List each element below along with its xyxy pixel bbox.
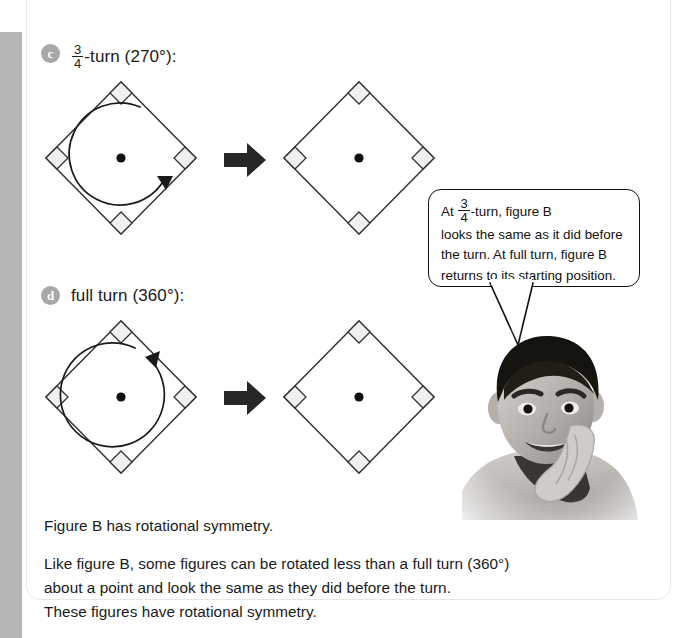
paragraph-figure-b-symmetry: Figure B has rotational symmetry. <box>44 514 273 538</box>
fraction-three-quarters: 3 4 <box>72 43 83 71</box>
figure-b-before-full-turn <box>40 315 202 479</box>
figure-b-after-full-turn <box>278 315 440 479</box>
bubble-line1-prefix: At <box>441 204 454 219</box>
left-margin-bar <box>0 32 22 638</box>
speech-bubble-text: At 3 4 -turn, figure B looks the same as… <box>441 197 631 286</box>
heading-suffix-text: -turn (270°): <box>84 47 176 66</box>
paragraph-rotational-symmetry-definition: Like figure B, some figures can be rotat… <box>44 552 509 624</box>
bubble-fraction-numerator: 3 <box>458 197 469 210</box>
heading-three-quarter-turn: 3 4 -turn (270°): <box>71 43 177 71</box>
figure-b-after-three-quarter-turn <box>278 76 440 240</box>
list-bullet-c: c <box>41 44 60 63</box>
fraction-numerator: 3 <box>72 43 83 56</box>
bubble-fraction-denominator: 4 <box>458 210 469 224</box>
transform-right-arrow-c <box>222 140 268 180</box>
definition-line-1: Like figure B, some figures can be rotat… <box>44 552 509 576</box>
bubble-line-1: At 3 4 -turn, figure B <box>441 197 631 225</box>
transform-right-arrow-d <box>222 378 268 418</box>
bubble-fraction-three-quarters: 3 4 <box>458 197 469 225</box>
definition-line-2: about a point and look the same as they … <box>44 576 509 600</box>
center-point-dot <box>116 153 125 162</box>
center-point-dot <box>354 392 363 401</box>
center-point-dot <box>116 392 125 401</box>
photo-vignette <box>462 330 648 520</box>
bubble-line-2: looks the same as it did before <box>441 225 631 246</box>
bubble-line-3: the turn. At full turn, figure B <box>441 245 631 266</box>
bubble-line1-suffix: -turn, figure B <box>471 204 552 219</box>
textbook-page: c 3 4 -turn (270°): <box>0 0 679 638</box>
fraction-denominator: 4 <box>72 56 83 70</box>
figure-b-before-three-quarter-turn <box>40 76 202 240</box>
center-point-dot <box>354 153 363 162</box>
student-photo <box>462 330 648 520</box>
list-bullet-d: d <box>41 286 60 305</box>
definition-line-3: These figures have rotational symmetry. <box>44 600 509 624</box>
speech-bubble: At 3 4 -turn, figure B looks the same as… <box>428 189 640 287</box>
heading-full-turn: full turn (360°): <box>71 286 184 306</box>
